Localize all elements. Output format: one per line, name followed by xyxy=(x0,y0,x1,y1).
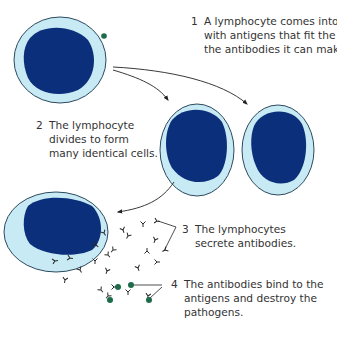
lymphocyte-daughter-1 xyxy=(160,104,234,196)
lymphocyte-daughter-2 xyxy=(242,105,314,195)
plasma-cell xyxy=(4,192,108,272)
arrow-to-cell-2a xyxy=(113,70,168,100)
arrow-to-plasma-cell xyxy=(118,182,174,212)
lymphocyte-initial xyxy=(14,17,107,103)
antigen-icon xyxy=(101,33,107,39)
leader-step-3 xyxy=(158,221,176,251)
arrow-to-cell-2b xyxy=(113,67,247,104)
